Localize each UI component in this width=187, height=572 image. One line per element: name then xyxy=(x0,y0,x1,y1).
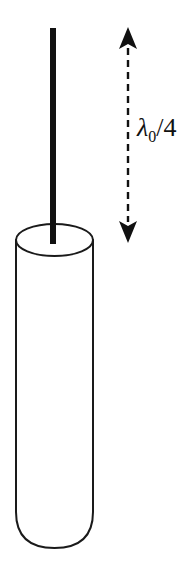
figure-canvas: λ0/4 xyxy=(0,0,187,572)
arrowhead-down-icon xyxy=(119,221,137,243)
dimension-label-subscript: 0 xyxy=(148,128,156,145)
cylinder-body-outline xyxy=(16,240,93,548)
dimension-label-symbol: λ xyxy=(136,113,148,142)
antenna-rod xyxy=(50,28,56,244)
antenna-diagram-svg: λ0/4 xyxy=(0,0,187,572)
arrowhead-up-icon xyxy=(119,27,137,49)
dimension-label: λ0/4 xyxy=(136,113,177,145)
dimension-label-denominator: 4 xyxy=(164,113,177,142)
